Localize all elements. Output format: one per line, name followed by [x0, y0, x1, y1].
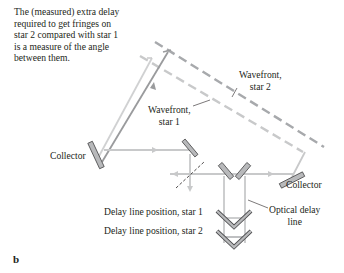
label-wavefront-star1: Wavefront, star 1 — [148, 104, 191, 127]
label-delay-position-star1: Delay line position, star 1 — [104, 206, 203, 218]
delay-mirror-right — [235, 162, 250, 179]
label-line: Wavefront, — [239, 69, 282, 81]
label-line: star 2 — [239, 81, 282, 93]
label-wavefront-star2: Wavefront, star 2 — [239, 69, 282, 92]
label-collector-right: Collector — [286, 179, 322, 191]
caption-line: The (measured) extra delay — [14, 6, 119, 18]
leader-wavefront-star1 — [193, 100, 210, 106]
caption-text: The (measured) extra delay required to g… — [14, 6, 119, 64]
arrow-right-icon-2 — [268, 171, 274, 177]
label-delay-position-star2: Delay line position, star 2 — [104, 225, 203, 237]
caption-line: between them. — [14, 52, 119, 64]
arrow-left-icon — [172, 171, 178, 177]
collector-left — [88, 141, 104, 168]
label-line: star 1 — [148, 116, 191, 128]
label-line: Wavefront, — [148, 104, 191, 116]
arrow-right-icon — [152, 147, 158, 153]
arrow-head-icon — [150, 82, 156, 90]
arrow-down-icon — [187, 186, 193, 192]
leader-optical-delay — [248, 200, 268, 208]
panel-letter: b — [13, 254, 19, 266]
label-collector-left: Collector — [50, 150, 86, 162]
delay-mirror-left — [218, 162, 233, 179]
label-optical-delay-line: Optical delay line — [269, 204, 320, 227]
label-line: Optical delay — [269, 204, 320, 216]
caption-line: required to get fringes on — [14, 18, 119, 30]
caption-line: star 2 compared with star 1 — [14, 29, 119, 41]
beam-star1-left — [98, 58, 152, 158]
wavefront-star2-line — [155, 42, 324, 147]
label-line: line — [269, 216, 320, 228]
caption-line: is a measure of the angle — [14, 41, 119, 53]
